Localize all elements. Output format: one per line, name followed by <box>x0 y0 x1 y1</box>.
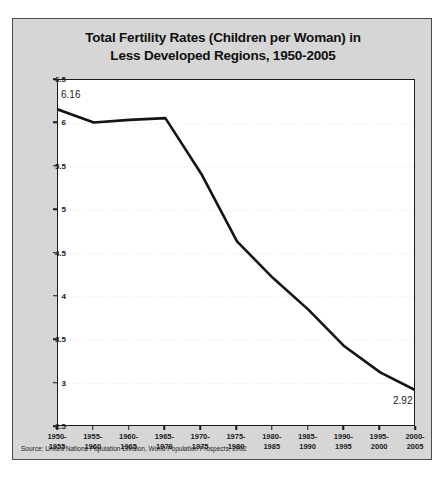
plot-wrapper: TFR (Children per Woman) 6.162.92 2.533.… <box>57 79 415 426</box>
x-tick-mark <box>92 426 94 430</box>
x-tick-mark <box>56 426 58 430</box>
chart-canvas <box>58 80 415 426</box>
chart-title-line-1: Total Fertility Rates (Children per Woma… <box>13 29 433 47</box>
x-tick-mark <box>414 426 416 430</box>
plot-area <box>57 79 415 426</box>
data-point-annotation: 6.16 <box>61 89 80 100</box>
y-tick-label: 4.5 <box>36 248 66 257</box>
y-tick-label: 6 <box>36 118 66 127</box>
x-tick-label-line: 2000- <box>393 432 437 442</box>
y-tick-label: 5.5 <box>36 161 66 170</box>
y-tick-label: 6.5 <box>36 75 66 84</box>
chart-figure: Total Fertility Rates (Children per Woma… <box>12 18 432 460</box>
y-tick-label: 2.5 <box>36 422 66 431</box>
y-tick-label: 3.5 <box>36 335 66 344</box>
y-tick-label: 4 <box>36 291 66 300</box>
y-tick-label: 5 <box>36 205 66 214</box>
source-note: Source: United Nations Population Divisi… <box>21 445 247 452</box>
y-tick-label: 3 <box>36 378 66 387</box>
x-tick-label-line: 2005 <box>393 442 437 452</box>
x-tick-mark <box>199 426 201 430</box>
data-point-annotation: 2.92 <box>393 395 412 406</box>
x-tick-mark <box>271 426 273 430</box>
x-tick-mark <box>128 426 130 430</box>
x-tick-label: 2000-2005 <box>393 432 437 451</box>
x-tick-mark <box>235 426 237 430</box>
chart-title-line-2: Less Developed Regions, 1950-2005 <box>13 47 433 65</box>
x-tick-mark <box>164 426 166 430</box>
x-tick-mark <box>307 426 309 430</box>
gridlines <box>58 123 415 383</box>
x-tick-mark <box>378 426 380 430</box>
chart-title: Total Fertility Rates (Children per Woma… <box>13 29 433 65</box>
tfr-line-series <box>58 110 415 391</box>
x-tick-mark <box>343 426 345 430</box>
